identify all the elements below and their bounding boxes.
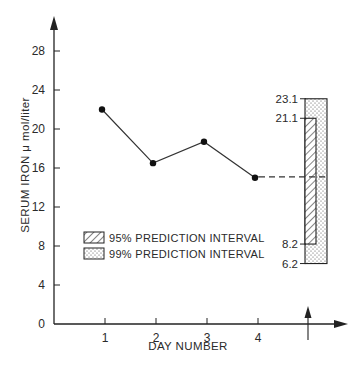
data-point bbox=[150, 160, 156, 166]
y-tick-label: 0 bbox=[38, 317, 45, 331]
x-axis-title: DAY NUMBER bbox=[148, 340, 228, 352]
interval-95-low-label: 8.2 bbox=[282, 238, 298, 250]
data-point bbox=[99, 106, 105, 112]
y-tick-label: 16 bbox=[32, 161, 46, 175]
interval-99-high-label: 23.1 bbox=[276, 93, 298, 105]
legend: 95% PREDICTION INTERVAL99% PREDICTION IN… bbox=[84, 232, 265, 260]
legend-99-label: 99% PREDICTION INTERVAL bbox=[109, 248, 265, 260]
x-axis-arrow-icon bbox=[334, 320, 348, 328]
y-tick-label: 12 bbox=[32, 200, 46, 214]
y-tick-label: 8 bbox=[38, 239, 45, 253]
interval-95-high-label: 21.1 bbox=[276, 112, 298, 124]
series-line bbox=[102, 110, 255, 178]
target-day-arrow-icon bbox=[305, 306, 312, 318]
y-axis-ticks: 0481216202428 bbox=[32, 44, 60, 331]
serum-iron-chart: 0481216202428 1234 23.121.18.26.2 95% PR… bbox=[0, 0, 360, 367]
interval-99-low-label: 6.2 bbox=[282, 258, 298, 270]
prediction-intervals: 23.121.18.26.2 bbox=[276, 93, 327, 270]
y-tick-label: 28 bbox=[32, 44, 46, 58]
data-point bbox=[201, 138, 207, 144]
axes bbox=[50, 16, 348, 328]
data-point bbox=[252, 175, 258, 181]
legend-95-label: 95% PREDICTION INTERVAL bbox=[109, 232, 265, 244]
y-axis-title: SERUM IRON μ mol/liter bbox=[19, 97, 31, 233]
legend-95-swatch bbox=[84, 232, 104, 243]
y-tick-label: 4 bbox=[38, 278, 45, 292]
legend-99-swatch bbox=[84, 248, 104, 259]
x-tick-label: 1 bbox=[102, 331, 109, 345]
y-tick-label: 20 bbox=[32, 122, 46, 136]
y-axis-arrow-icon bbox=[50, 16, 58, 30]
x-tick-label: 4 bbox=[255, 331, 262, 345]
interval-95-box bbox=[305, 118, 316, 244]
y-tick-label: 24 bbox=[32, 83, 46, 97]
